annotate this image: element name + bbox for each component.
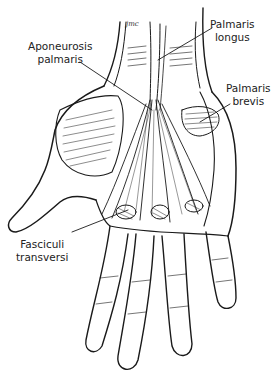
label-aponeurosis-palmaris: Aponeurosis palmaris [28,40,92,66]
label-line: brevis [226,95,271,108]
label-line: Aponeurosis [28,40,92,53]
label-line: palmaris [28,53,92,66]
label-line: Palmaris [226,82,271,95]
label-palmaris-longus: Palmaris longus [210,18,255,44]
label-line: Palmaris [210,18,255,31]
label-fasciculi-transversi: Fasciculi transversi [16,238,68,264]
svg-text:jmc: jmc [124,20,139,28]
leader-fasciculi [72,210,128,232]
label-line: Fasciculi [16,238,68,251]
label-line: longus [210,31,255,44]
leader-aponeurosis [80,62,152,110]
anatomy-figure: jmc Aponeurosis palmaris Palmaris longus… [0,0,278,374]
label-palmaris-brevis: Palmaris brevis [226,82,271,108]
label-line: transversi [16,251,68,264]
